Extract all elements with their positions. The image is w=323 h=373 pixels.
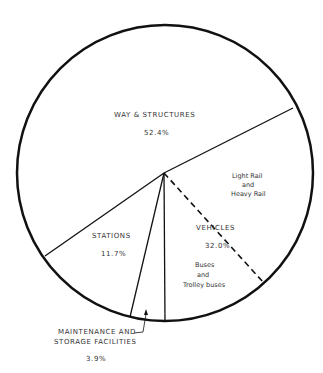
label-vehicles-pct: 32.0% <box>205 242 230 250</box>
label-stations-pct: 11.7% <box>101 250 126 258</box>
label-vehicles: VEHICLES <box>196 224 235 232</box>
label-bus-1: Buses <box>195 260 214 270</box>
label-maintenance-1: MAINTENANCE AND <box>58 328 136 336</box>
pie-chart <box>0 0 323 373</box>
label-rail-3: Heavy Rail <box>231 189 266 199</box>
label-bus-2: and <box>197 270 209 280</box>
label-stations: STATIONS <box>92 232 131 240</box>
label-bus-3: Trolley buses <box>183 280 225 290</box>
label-way-structures-pct: 52.4% <box>144 129 169 137</box>
label-way-structures: WAY & STRUCTURES <box>114 111 195 119</box>
label-maintenance-pct: 3.9% <box>86 355 106 363</box>
label-maintenance-2: STORAGE FACILITIES <box>54 338 137 346</box>
